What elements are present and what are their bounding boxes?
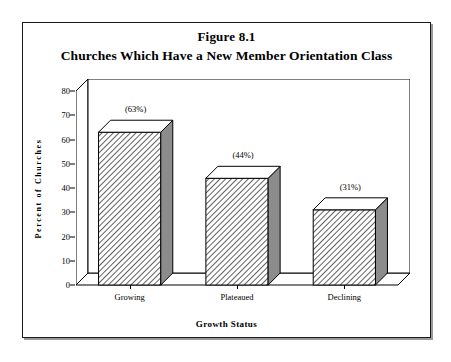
y-tick-label: 50 bbox=[62, 159, 71, 169]
x-tick-mark bbox=[130, 285, 131, 289]
x-tick-label: Declining bbox=[328, 292, 362, 302]
bar-front-face bbox=[99, 132, 161, 285]
bar-side-face bbox=[161, 120, 173, 285]
bar-top-face bbox=[99, 120, 173, 132]
bar-growing bbox=[99, 120, 173, 285]
x-tick-mark bbox=[344, 285, 345, 289]
bar-front-face bbox=[206, 178, 268, 285]
y-tick-label: 0 bbox=[66, 280, 70, 290]
y-tick-mark bbox=[70, 139, 75, 140]
y-tick-label: 60 bbox=[62, 135, 71, 145]
bar-plateaued bbox=[206, 166, 280, 285]
y-tick-label: 70 bbox=[62, 110, 71, 120]
x-tick-mark bbox=[237, 285, 238, 289]
x-tick-label: Plateaued bbox=[220, 292, 253, 302]
chart-title: Churches Which Have a New Member Orienta… bbox=[23, 48, 430, 64]
y-axis-title: Percent of Churches bbox=[31, 79, 47, 297]
y-axis-title-label: Percent of Churches bbox=[35, 138, 44, 238]
bar-side-face bbox=[268, 166, 280, 285]
bar-declining bbox=[313, 198, 387, 285]
bar-side-face bbox=[375, 198, 387, 285]
plot-area: 01020304050607080 GrowingPlateauedDeclin… bbox=[76, 79, 410, 297]
y-tick-label: 10 bbox=[62, 256, 71, 266]
y-tick-mark bbox=[70, 260, 75, 261]
y-tick-mark bbox=[70, 163, 75, 164]
bar-top-face bbox=[206, 166, 280, 178]
y-tick-mark bbox=[70, 236, 75, 237]
bar-value-label: (44%) bbox=[232, 150, 253, 160]
figure-frame: Figure 8.1 Churches Which Have a New Mem… bbox=[22, 22, 431, 338]
bar-value-label: (63%) bbox=[125, 104, 146, 114]
x-axis-title: Growth Status bbox=[23, 319, 430, 329]
y-tick-label: 80 bbox=[62, 86, 71, 96]
x-tick-label: Growing bbox=[115, 292, 145, 302]
y-tick-mark bbox=[70, 285, 75, 286]
y-tick-mark bbox=[70, 188, 75, 189]
figure-number: Figure 8.1 bbox=[23, 29, 430, 45]
y-tick-mark bbox=[70, 212, 75, 213]
bar-front-face bbox=[313, 210, 375, 285]
bar-value-label: (31%) bbox=[340, 182, 361, 192]
y-tick-label: 40 bbox=[62, 183, 71, 193]
y-tick-mark bbox=[70, 115, 75, 116]
bar-top-face bbox=[313, 198, 387, 210]
y-tick-label: 20 bbox=[62, 232, 71, 242]
y-tick-mark bbox=[70, 91, 75, 92]
y-tick-label: 30 bbox=[62, 207, 71, 217]
